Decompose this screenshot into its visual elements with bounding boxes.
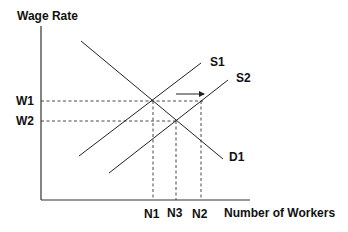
w1-label: W1 [16,94,34,108]
supply-curve-s1 [79,63,201,156]
n1-label: N1 [144,207,160,221]
y-axis-title: Wage Rate [17,9,78,23]
n3-label: N3 [167,206,183,220]
supply-curve-s2 [109,80,228,173]
w2-label: W2 [16,114,34,128]
x-axis-title: Number of Workers [224,206,335,220]
d1-label: D1 [229,150,245,164]
n2-label: N2 [192,207,208,221]
s1-label: S1 [210,55,225,69]
s2-label: S2 [236,71,251,85]
labor-market-diagram: Wage Rate S1 S2 D1 W1 W2 N1 N3 N2 Number… [0,0,348,232]
